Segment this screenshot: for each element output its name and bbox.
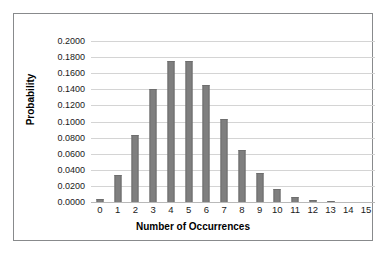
y-tick-label: 0.2000 <box>57 37 85 46</box>
bar <box>221 119 228 202</box>
bar <box>150 89 157 202</box>
x-tick-label: 5 <box>180 204 198 216</box>
x-tick-label: 9 <box>251 204 269 216</box>
plot-area <box>91 41 375 202</box>
y-tick-label: 0.0800 <box>57 133 85 142</box>
bar <box>274 189 281 202</box>
bar-slot <box>269 41 287 202</box>
x-axis-tick-labels: 0123456789101112131415 <box>91 204 375 218</box>
x-tick-label: 2 <box>127 204 145 216</box>
bar-slot <box>180 41 198 202</box>
x-tick-label: 15 <box>357 204 375 216</box>
bar-slot <box>286 41 304 202</box>
x-tick-label: 8 <box>233 204 251 216</box>
bar <box>132 135 139 202</box>
bar-slot <box>322 41 340 202</box>
bar-slot <box>198 41 216 202</box>
bar-series <box>91 41 375 202</box>
bar-slot <box>357 41 375 202</box>
x-tick-label: 4 <box>162 204 180 216</box>
bar <box>309 200 316 202</box>
y-axis-title: Probability <box>25 35 36 165</box>
bar-slot <box>144 41 162 202</box>
bar <box>327 201 334 203</box>
bar-slot <box>109 41 127 202</box>
y-tick-label: 0.1800 <box>57 53 85 62</box>
bar-slot <box>215 41 233 202</box>
y-tick-label: 0.1200 <box>57 101 85 110</box>
bar-slot <box>91 41 109 202</box>
x-tick-label: 13 <box>322 204 340 216</box>
chart-figure: Probability 0.20000.18000.16000.14000.12… <box>0 0 389 258</box>
y-tick-label: 0.1400 <box>57 85 85 94</box>
y-tick-label: 0.0400 <box>57 165 85 174</box>
x-tick-label: 0 <box>91 204 109 216</box>
chart-frame: Probability 0.20000.18000.16000.14000.12… <box>13 13 373 241</box>
bar <box>292 197 299 202</box>
bar <box>203 85 210 202</box>
x-tick-label: 7 <box>215 204 233 216</box>
bar-slot <box>162 41 180 202</box>
y-axis-tick-labels: 0.20000.18000.16000.14000.12000.10000.08… <box>42 41 88 202</box>
bar <box>114 175 121 202</box>
x-tick-label: 14 <box>340 204 358 216</box>
bar <box>167 61 174 202</box>
bar-slot <box>304 41 322 202</box>
y-tick-label: 0.1000 <box>57 117 85 126</box>
gridline <box>91 202 375 203</box>
x-tick-label: 1 <box>109 204 127 216</box>
x-tick-label: 3 <box>144 204 162 216</box>
x-tick-label: 11 <box>286 204 304 216</box>
bar-slot <box>233 41 251 202</box>
y-tick-label: 0.0600 <box>57 149 85 158</box>
x-tick-label: 10 <box>269 204 287 216</box>
x-tick-label: 12 <box>304 204 322 216</box>
bar <box>96 199 103 202</box>
bar <box>256 173 263 202</box>
bar-slot <box>340 41 358 202</box>
x-axis-title: Number of Occurrences <box>14 221 372 232</box>
x-tick-label: 6 <box>198 204 216 216</box>
bar-slot <box>251 41 269 202</box>
bar-slot <box>127 41 145 202</box>
y-tick-label: 0.0000 <box>57 198 85 207</box>
bar <box>238 150 245 202</box>
bar <box>185 61 192 202</box>
y-tick-label: 0.0200 <box>57 181 85 190</box>
y-tick-label: 0.1600 <box>57 69 85 78</box>
